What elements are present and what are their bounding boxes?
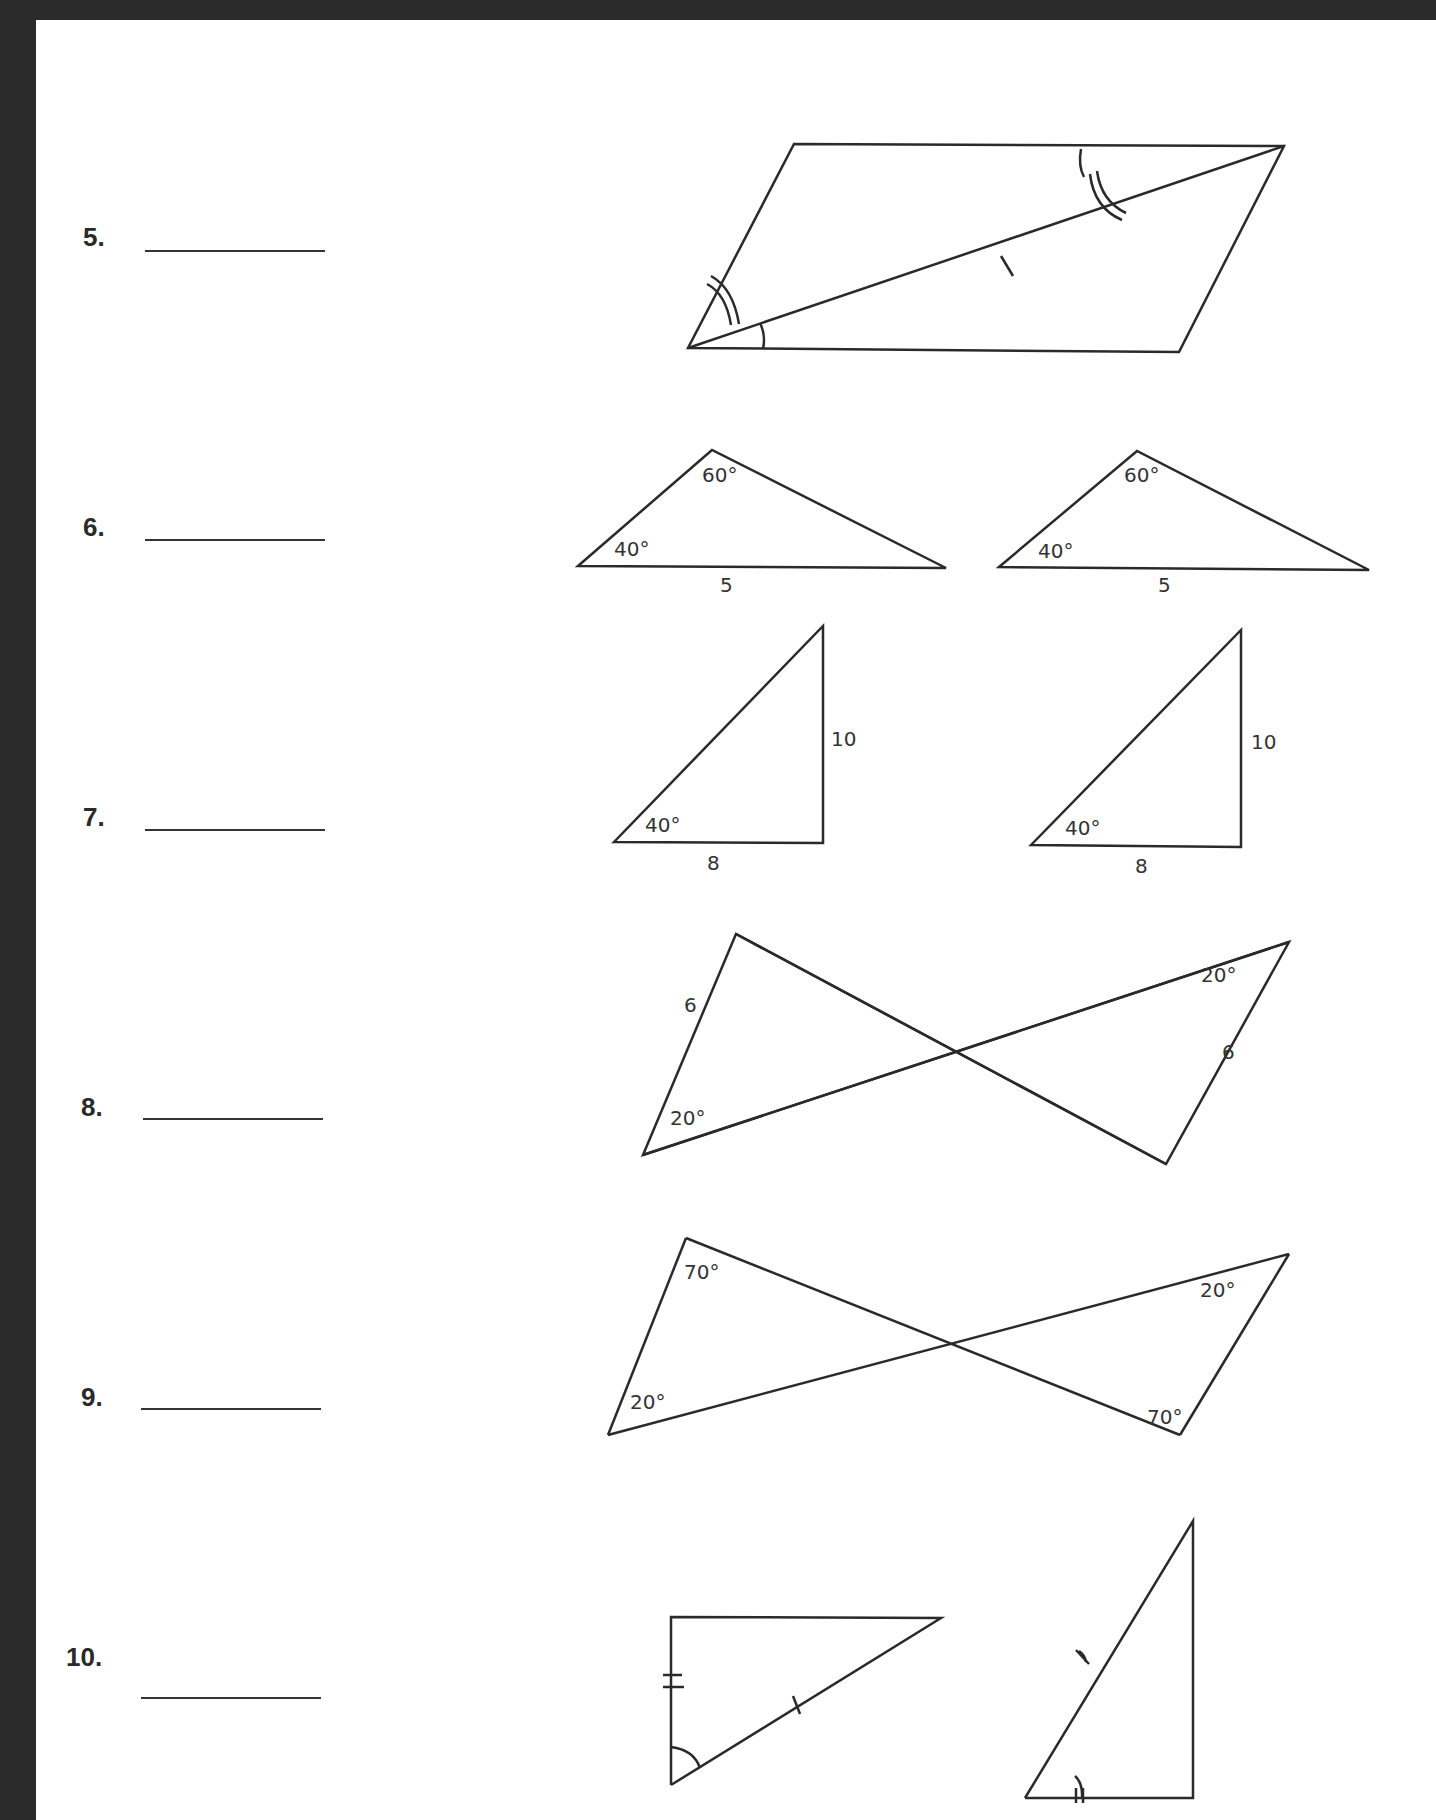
fig8-right-side: 6 xyxy=(1222,1040,1235,1064)
fig7-a-base: 8 xyxy=(707,851,720,875)
fig6-b-left-angle: 40° xyxy=(1038,539,1073,563)
fig7-a-right-side: 10 xyxy=(831,727,856,751)
fig8-left-side: 6 xyxy=(684,993,697,1017)
figure-5-parallelogram xyxy=(688,144,1284,352)
fig6-b-side: 5 xyxy=(1158,573,1171,597)
fig9-top-right-angle: 20° xyxy=(1200,1278,1235,1302)
fig7-b-angle: 40° xyxy=(1065,816,1100,840)
fig8-right-angle: 20° xyxy=(1201,963,1236,987)
tick-mark-icon xyxy=(1001,256,1013,276)
figure-8-bowtie xyxy=(643,934,1289,1164)
fig6-a-top-angle: 60° xyxy=(702,463,737,487)
fig6-a-left-angle: 40° xyxy=(614,537,649,561)
fig7-b-base: 8 xyxy=(1135,854,1148,878)
fig8-left-angle: 20° xyxy=(670,1106,705,1130)
figure-10-triangles xyxy=(663,1521,1193,1803)
figure-7-triangles xyxy=(614,626,1241,847)
fig9-bottom-right-angle: 70° xyxy=(1147,1405,1182,1429)
fig9-top-left-angle: 70° xyxy=(684,1260,719,1284)
fig6-b-top-angle: 60° xyxy=(1124,463,1159,487)
fig9-bottom-left-angle: 20° xyxy=(630,1390,665,1414)
fig6-a-side: 5 xyxy=(720,573,733,597)
figure-6-triangles xyxy=(578,450,1369,570)
fig7-b-right-side: 10 xyxy=(1251,730,1276,754)
fig7-a-angle: 40° xyxy=(645,813,680,837)
